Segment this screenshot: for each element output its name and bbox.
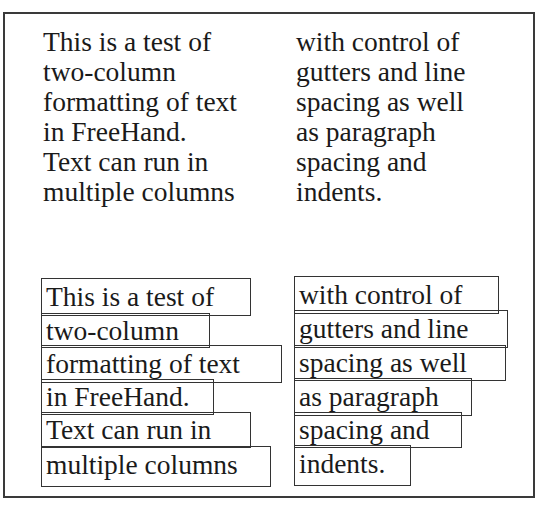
text-line: gutters and line <box>296 57 466 87</box>
text-line: indents. <box>296 177 466 207</box>
text-line: This is a test of <box>43 27 237 57</box>
text-line-box: multiple columns <box>41 446 271 487</box>
text-line: multiple columns <box>43 177 237 207</box>
text-line-box: formatting of text <box>41 345 282 383</box>
text-line-box: indents. <box>294 445 411 486</box>
text-line-box: This is a test of <box>41 278 251 316</box>
text-line: as paragraph <box>296 117 466 147</box>
text-line-box: Text can run in <box>41 412 251 448</box>
text-line-box: gutters and line <box>294 310 508 348</box>
text-line-box: in FreeHand. <box>41 379 214 415</box>
text-line: spacing as well <box>296 87 466 117</box>
text-line: in FreeHand. <box>43 117 237 147</box>
text-line-box: spacing and <box>294 412 462 448</box>
text-line: spacing and <box>296 147 466 177</box>
text-line-box: spacing as well <box>294 345 506 381</box>
text-line-box: with control of <box>294 276 499 314</box>
text-line-box: two-column <box>41 313 210 348</box>
top-left-column: This is a test of two-column formatting … <box>43 27 237 207</box>
text-line: two-column <box>43 57 237 87</box>
text-line-box: as paragraph <box>294 378 472 416</box>
text-line: with control of <box>296 27 466 57</box>
top-right-column: with control of gutters and line spacing… <box>296 27 466 207</box>
text-line: Text can run in <box>43 147 237 177</box>
text-line: formatting of text <box>43 87 237 117</box>
